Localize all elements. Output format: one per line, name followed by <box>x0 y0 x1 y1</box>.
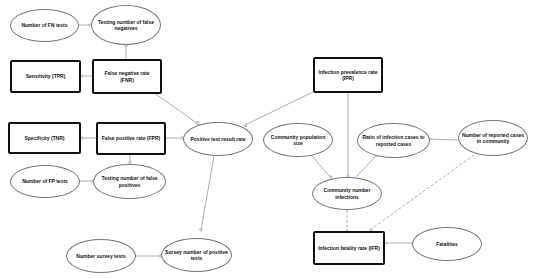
ifr-node[interactable]: Infection fatality rate (IFR) <box>313 231 385 265</box>
node-label: Infection prevalence rate (IPR) <box>318 69 378 82</box>
node-label: Number survey tests <box>76 253 125 259</box>
reported-cases-community-node[interactable]: Number of reported cases in community <box>458 120 528 156</box>
fatalities-node[interactable]: Fatalities <box>412 227 482 261</box>
community-number-infections-node[interactable]: Community number infections <box>312 177 382 210</box>
node-label: Infection fatality rate (IFR) <box>318 245 380 251</box>
node-label: Specificity (TNR) <box>24 135 64 141</box>
ipr-node[interactable]: Infection prevalence rate (IPR) <box>313 57 383 93</box>
community-population-size-node[interactable]: Community population size <box>263 123 333 157</box>
node-label: Survey number of positive tests <box>165 249 228 262</box>
fnr-node[interactable]: False negative rate (FNR) <box>92 59 162 94</box>
ratio-infection-reported-node[interactable]: Ratio of infection cases to reported cas… <box>357 123 430 158</box>
node-label: Testing number of false negatives <box>95 19 157 32</box>
survey-positive-tests-node[interactable]: Survey number of positive tests <box>161 238 232 272</box>
node-label: Ratio of infection cases to reported cas… <box>361 134 426 147</box>
node-label: Number of reported cases in community <box>462 132 524 145</box>
positive-test-result-rate-node[interactable]: Positive test result rate <box>183 122 253 156</box>
node-label: Fatalities <box>436 241 458 247</box>
node-label: Community population size <box>267 134 329 147</box>
node-label: Positive test result rate <box>190 136 245 142</box>
node-label: False negative rate (FNR) <box>97 70 157 83</box>
node-label: False positive rate (FPR) <box>102 135 160 141</box>
specificity-node[interactable]: Specificity (TNR) <box>8 122 81 154</box>
node-label: Community number infections <box>316 187 378 200</box>
sensitivity-node[interactable]: Sensitivity (TPR) <box>10 60 81 93</box>
node-label: Number of FP tests <box>22 178 68 184</box>
testing-false-negatives-node[interactable]: Testing number of false negatives <box>91 5 161 45</box>
fp-tests-node[interactable]: Number of FP tests <box>10 165 80 198</box>
number-survey-tests-node[interactable]: Number survey tests <box>66 239 136 273</box>
fn-tests-node[interactable]: Number of FN tests <box>10 9 79 42</box>
node-label: Number of FN tests <box>21 22 67 28</box>
fpr-node[interactable]: False positive rate (FPR) <box>96 122 166 155</box>
testing-false-positives-node[interactable]: Testing number of false positives <box>93 164 166 199</box>
node-label: Sensitivity (TPR) <box>26 73 66 79</box>
node-label: Testing number of false positives <box>97 175 162 188</box>
